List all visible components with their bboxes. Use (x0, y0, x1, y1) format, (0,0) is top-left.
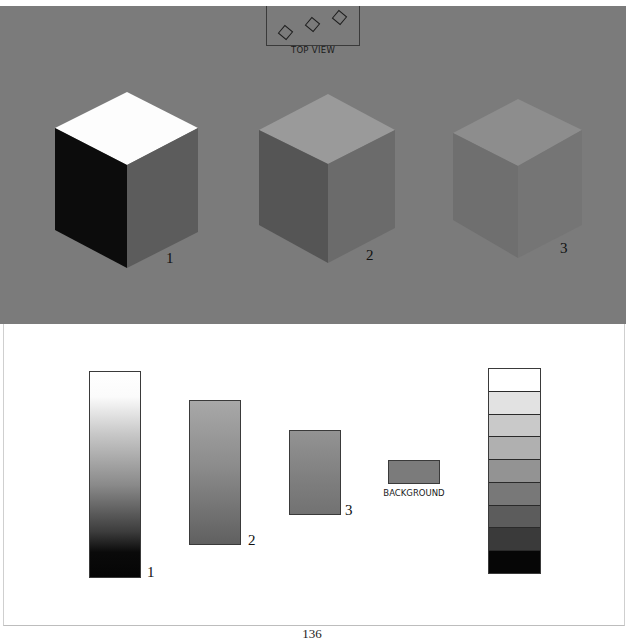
cubes-drawing (0, 0, 628, 330)
cube-1 (55, 92, 198, 268)
value-step-4 (489, 437, 540, 460)
value-step-6 (489, 483, 540, 506)
value-scale (488, 368, 541, 574)
value-step-5 (489, 460, 540, 483)
bar-label-3: 3 (345, 503, 353, 518)
bar-label-1: 1 (147, 565, 155, 580)
cube-3 (453, 99, 582, 258)
value-step-8 (489, 528, 540, 551)
cube-label-3: 3 (560, 241, 568, 256)
value-step-2 (489, 392, 540, 415)
value-step-1 (489, 369, 540, 392)
gradient-bar-3 (289, 430, 341, 515)
background-label: BACKGROUND (378, 488, 450, 498)
value-step-3 (489, 415, 540, 438)
cube-2 (259, 94, 395, 263)
bar-label-2: 2 (248, 533, 256, 548)
cube-label-1: 1 (166, 251, 174, 266)
value-step-9 (489, 551, 540, 573)
page-number: 136 (290, 627, 334, 640)
gradient-bar-2 (189, 400, 241, 545)
value-step-7 (489, 506, 540, 529)
gradient-bar-1 (89, 371, 141, 578)
background-swatch (388, 460, 440, 484)
cube-label-2: 2 (366, 248, 374, 263)
